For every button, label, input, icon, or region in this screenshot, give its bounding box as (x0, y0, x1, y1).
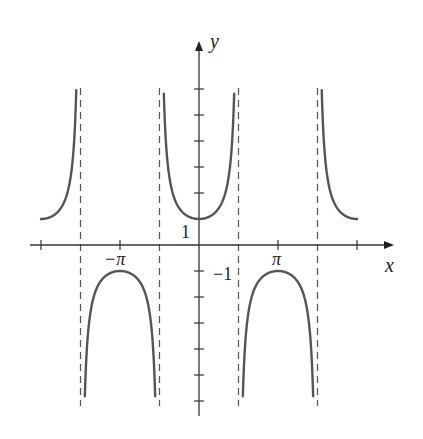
secant-graph: y x −π π 1 −1 (0, 0, 423, 439)
secant-branch (322, 90, 357, 219)
neg-pi-label: −π (104, 249, 126, 269)
secant-branch (41, 90, 76, 219)
axes (30, 43, 392, 416)
y-one-label: 1 (181, 222, 190, 242)
x-axis-label: x (384, 254, 394, 276)
secant-branch (243, 271, 313, 396)
secant-branch (85, 271, 155, 396)
y-neg-one-label: −1 (213, 264, 232, 284)
pi-label: π (272, 249, 282, 269)
y-axis-label: y (208, 30, 219, 53)
